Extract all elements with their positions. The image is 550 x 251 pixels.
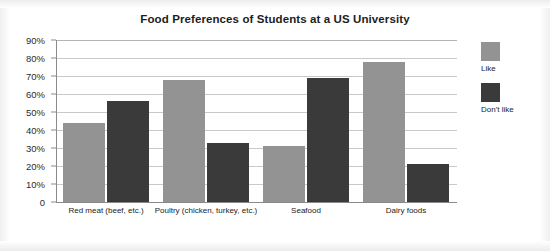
legend-swatch-icon <box>481 42 500 61</box>
y-axis-tick-label: 60% <box>0 89 50 100</box>
x-axis-category-label: Red meat (beef, etc.) <box>68 206 143 215</box>
x-axis-labels: Red meat (beef, etc.)Poultry (chicken, t… <box>56 206 456 226</box>
y-axis-tick-label: 80% <box>0 53 50 64</box>
y-axis-tick-label: 40% <box>0 125 50 136</box>
bar-don-t-like-1[interactable] <box>107 101 149 202</box>
page-edge-shadow-top <box>0 0 550 8</box>
bar-don-t-like-2[interactable] <box>207 143 249 202</box>
bar-group <box>263 40 349 202</box>
bar-don-t-like-4[interactable] <box>407 164 449 202</box>
y-axis-tick-label: 0 <box>0 197 50 208</box>
x-axis-category-label: Dairy foods <box>386 206 426 215</box>
bar-don-t-like-3[interactable] <box>307 78 349 202</box>
legend-item[interactable]: Don't like <box>481 83 545 114</box>
y-axis-tick-label: 20% <box>0 161 50 172</box>
bar-like-3[interactable] <box>263 146 305 202</box>
x-axis-category-label: Poultry (chicken, turkey, etc.) <box>155 206 258 215</box>
bar-group <box>63 40 149 202</box>
bar-group <box>163 40 249 202</box>
y-axis-tick-label: 70% <box>0 71 50 82</box>
legend-label: Don't like <box>481 105 545 114</box>
page-edge-shadow-right <box>540 0 550 251</box>
legend-item[interactable]: Like <box>481 42 545 73</box>
y-axis-tick-label: 50% <box>0 107 50 118</box>
bar-like-2[interactable] <box>163 80 205 202</box>
chart-legend: LikeDon't like <box>481 42 545 124</box>
chart-container: Food Preferences of Students at a US Uni… <box>0 0 550 251</box>
y-axis-tick-label: 90% <box>0 35 50 46</box>
bar-like-1[interactable] <box>63 123 105 202</box>
legend-label: Like <box>481 64 545 73</box>
y-axis-tick-label: 30% <box>0 143 50 154</box>
chart-title: Food Preferences of Students at a US Uni… <box>0 13 550 25</box>
y-axis-labels: 90%80%70%60%50%40%30%20%10%0 <box>0 40 50 202</box>
bar-like-4[interactable] <box>363 62 405 202</box>
bars-layer <box>56 40 456 202</box>
x-axis-category-label: Seafood <box>291 206 321 215</box>
bar-group <box>363 40 449 202</box>
page-edge-shadow-bottom <box>0 241 550 251</box>
legend-swatch-icon <box>481 83 500 102</box>
y-axis-tick-label: 10% <box>0 179 50 190</box>
